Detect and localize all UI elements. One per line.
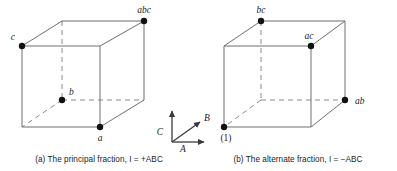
caption-panel-b: (b) The alternate fraction, I = −ABC: [199, 154, 397, 165]
panel-alternate-fraction: bc ac ab (1) (b) The alternate fraction,…: [199, 0, 397, 171]
caption-panel-a: (a) The principal fraction, I = +ABC: [0, 154, 198, 165]
design-point-1[interactable]: [221, 124, 227, 130]
axis-line-b: [172, 122, 200, 142]
cube-a-visible-edges: [22, 21, 144, 127]
cube-a-edge-top-left-back: [22, 21, 62, 46]
design-point-label-ab: ab: [355, 96, 365, 106]
design-point-ac[interactable]: [308, 43, 314, 49]
design-point-label-bc: bc: [257, 5, 267, 15]
cube-b-edge-top-right-front: [311, 21, 345, 46]
design-point-bc[interactable]: [258, 18, 264, 24]
cube-b-hidden-edge-to-front-left: [224, 100, 261, 127]
caption-panel-b-text: (b) The alternate fraction, I = −ABC: [233, 155, 362, 164]
design-point-label-c: c: [11, 32, 16, 42]
cube-b-hidden-edges: [224, 21, 345, 127]
design-point-label-1: (1): [220, 133, 231, 144]
design-point-c[interactable]: [19, 43, 25, 49]
cube-diagram-b: bc ac ab (1): [199, 0, 397, 145]
design-point-ab[interactable]: [342, 97, 348, 103]
design-point-label-b: b: [69, 87, 74, 97]
figure-root: c abc b a (a) The principal fraction, I …: [0, 0, 397, 171]
cube-a-design-points: [19, 18, 147, 130]
design-point-a[interactable]: [97, 124, 103, 130]
cube-b-edge-bottom-right-back: [311, 100, 345, 127]
caption-panel-a-text: (a) The principal fraction, I = +ABC: [35, 155, 163, 164]
cube-b-visible-edges: [224, 21, 345, 127]
cube-a-hidden-edge-to-front-left: [22, 100, 62, 127]
design-point-label-a: a: [98, 133, 103, 143]
design-point-label-abc: abc: [137, 5, 152, 15]
design-point-abc[interactable]: [141, 18, 147, 24]
cube-a-edge-top-right-front: [100, 21, 144, 46]
cube-a-edge-bottom-right-back: [100, 100, 144, 127]
axis-label-c: C: [157, 127, 164, 137]
cube-a-point-labels: c abc b a: [11, 5, 152, 143]
axis-label-a: A: [179, 144, 186, 152]
design-point-b[interactable]: [59, 97, 65, 103]
design-point-label-ac: ac: [305, 31, 315, 41]
cube-b-point-label-one: (1): [220, 133, 231, 144]
cube-b-edge-top-left-back: [224, 21, 261, 46]
